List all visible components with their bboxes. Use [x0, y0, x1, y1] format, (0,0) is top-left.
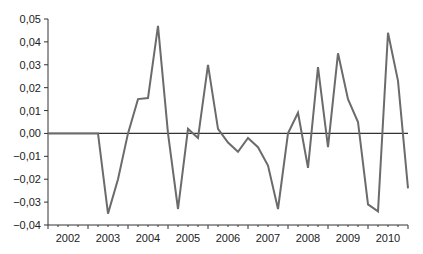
y-axis: 0,050,040,030,020,010,00−0,01−0,02−0,03−… [13, 13, 48, 231]
y-tick-label: −0,02 [13, 173, 41, 185]
x-tick-label: 2002 [56, 232, 80, 244]
x-tick-label: 2003 [96, 232, 120, 244]
x-tick-label: 2007 [256, 232, 280, 244]
y-tick-label: −0,04 [13, 219, 41, 231]
x-tick-label: 2005 [176, 232, 200, 244]
y-tick-label: −0,01 [13, 150, 41, 162]
y-tick-label: 0,00 [20, 127, 41, 139]
x-axis: 200220032004200520062007200820092010 [48, 225, 408, 244]
y-tick-label: 0,05 [20, 13, 41, 25]
x-tick-label: 2004 [136, 232, 160, 244]
y-tick-label: 0,03 [20, 59, 41, 71]
x-tick-label: 2009 [336, 232, 360, 244]
y-tick-label: 0,01 [20, 105, 41, 117]
x-tick-label: 2010 [376, 232, 400, 244]
x-tick-label: 2008 [296, 232, 320, 244]
y-tick-label: −0,03 [13, 196, 41, 208]
x-tick-label: 2006 [216, 232, 240, 244]
line-chart: 0,050,040,030,020,010,00−0,01−0,02−0,03−… [0, 0, 423, 254]
y-tick-label: 0,02 [20, 82, 41, 94]
data-series-line [48, 26, 408, 214]
y-tick-label: 0,04 [20, 36, 41, 48]
